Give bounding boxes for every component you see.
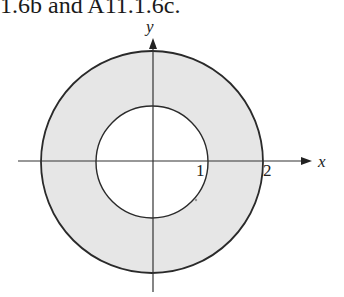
shaded-region <box>0 0 344 297</box>
x-axis-label: x <box>317 152 326 171</box>
speck-mark <box>195 199 197 201</box>
annulus-diagram: y x 1 2 <box>0 0 344 297</box>
tick-label-2: 2 <box>263 161 272 180</box>
tick-label-1: 1 <box>196 161 205 180</box>
y-axis-label: y <box>144 17 154 36</box>
